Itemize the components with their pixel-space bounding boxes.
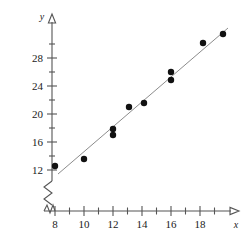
data-point [126,104,132,110]
axis-break-marks [44,181,55,213]
data-point [110,132,116,138]
y-tick-label-16: 16 [32,136,44,148]
y-tick-label-28: 28 [32,52,44,64]
x-tick-label-18: 18 [195,218,207,230]
scatter-plot-figure: 12 16 20 24 28 8 10 12 14 16 18 y x [0,0,249,243]
x-tick-label-14: 14 [137,218,149,230]
y-tick-label-24: 24 [32,80,44,92]
data-point [168,77,174,83]
y-axis-break-zigzag [44,181,52,205]
y-axis-label: y [39,11,45,22]
y-tick-labels: 12 16 20 24 28 [32,52,44,176]
data-point [141,100,147,106]
x-tick-label-12: 12 [108,218,119,230]
data-point [200,40,206,46]
y-tick-label-20: 20 [32,108,44,120]
x-tick-label-16: 16 [166,218,178,230]
y-axis-arrowhead [48,14,55,23]
x-tick-label-8: 8 [52,218,58,230]
data-point [168,69,174,75]
data-point [220,31,226,37]
data-point [110,126,116,132]
x-tick-labels: 8 10 12 14 16 18 [52,218,206,230]
x-axis-break-zigzag [44,205,55,213]
x-axis-label: x [233,219,239,230]
data-point [81,156,87,162]
data-point [52,163,58,169]
y-tick-label-12: 12 [32,164,43,176]
plot-canvas: 12 16 20 24 28 8 10 12 14 16 18 y x [0,0,249,243]
x-axis-arrowhead [230,207,239,214]
x-tick-label-10: 10 [79,218,91,230]
